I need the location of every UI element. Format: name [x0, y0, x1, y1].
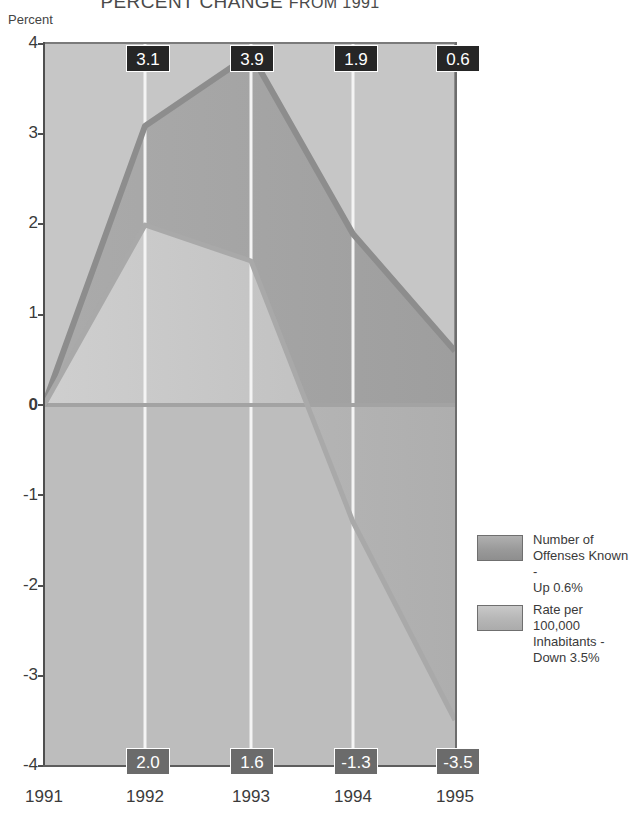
- plot-frame-left: [43, 42, 45, 767]
- x-tick-1992: 1992: [105, 787, 185, 807]
- chart-title-suffix: FROM 1991: [289, 0, 380, 11]
- legend-label-rate-line3: Down 3.5%: [533, 650, 599, 665]
- legend-label-offenses-line2: Offenses Known -: [533, 548, 628, 579]
- data-label-offenses-1993: 3.9: [230, 45, 274, 72]
- legend-swatch-offenses: [477, 535, 523, 561]
- plot-frame-top: [43, 42, 457, 44]
- legend-label-rate-line1: Rate per 100,000: [533, 602, 583, 633]
- y-tick-1: 1: [4, 304, 38, 321]
- y-tick-minus-2: -2: [4, 576, 38, 593]
- data-label-offenses-1995: 0.6: [436, 45, 480, 72]
- x-tick-1993: 1993: [211, 787, 291, 807]
- y-tick-4: 4: [4, 34, 38, 51]
- data-label-rate-1994: -1.3: [334, 748, 378, 775]
- data-label-rate-1993: 1.6: [230, 748, 274, 775]
- chart-title-main: PERCENT CHANGE: [100, 0, 283, 12]
- y-tick-minus-1: -1: [4, 486, 38, 503]
- legend-swatch-rate: [477, 605, 523, 631]
- plot-svg: [44, 43, 455, 765]
- legend-label-offenses-line3: Up 0.6%: [533, 580, 583, 595]
- legend-label-offenses-line1: Number of: [533, 532, 594, 547]
- y-axis-label: Percent: [8, 12, 53, 27]
- legend-label-rate-line2: Inhabitants -: [533, 634, 605, 649]
- y-tick-minus-3: -3: [4, 666, 38, 683]
- y-tick-3: 3: [4, 124, 38, 141]
- plot-area: [44, 43, 455, 765]
- y-tick-minus-4: -4: [4, 756, 38, 773]
- x-tick-1994: 1994: [313, 787, 393, 807]
- plot-frame-right: [455, 42, 457, 767]
- data-label-offenses-1994: 1.9: [334, 45, 378, 72]
- y-tick-0: 0: [4, 396, 38, 413]
- data-label-offenses-1992: 3.1: [126, 45, 170, 72]
- legend-label-rate: Rate per 100,000 Inhabitants - Down 3.5%: [533, 602, 630, 666]
- x-tick-1991: 1991: [4, 787, 84, 807]
- x-tick-1995: 1995: [415, 787, 495, 807]
- y-tick-2: 2: [4, 214, 38, 231]
- chart-figure: PERCENT CHANGE FROM 1991 Percent 4 3 2 1…: [0, 0, 630, 827]
- data-label-rate-1995: -3.5: [436, 748, 480, 775]
- data-label-rate-1992: 2.0: [126, 748, 170, 775]
- chart-title: PERCENT CHANGE FROM 1991: [0, 0, 480, 13]
- legend-label-offenses: Number of Offenses Known - Up 0.6%: [533, 532, 630, 596]
